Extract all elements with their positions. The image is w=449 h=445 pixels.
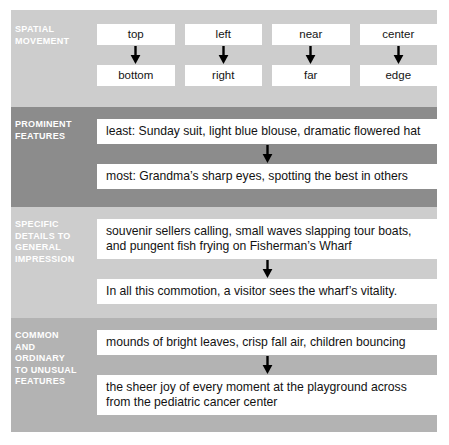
- section-label-common-and-ordinary-to-unusual-features: COMMON AND ORDINARY TO UNUSUAL FEATURES: [11, 330, 97, 388]
- section-label-prominent-features: PROMINENT FEATURES: [11, 119, 97, 142]
- section-spatial-movement: SPATIAL MOVEMENT top bottom left: [11, 10, 437, 107]
- section-label-line: TO UNUSUAL: [15, 365, 97, 377]
- statement-line: In all this commotion, a visitor sees th…: [106, 284, 428, 299]
- section-label-line: GENERAL: [15, 242, 97, 254]
- section-label-line: PROMINENT: [15, 119, 97, 131]
- section-label-line: MOVEMENT: [15, 36, 97, 48]
- word-box-from: center: [360, 24, 438, 45]
- section-label-line: SPATIAL: [15, 24, 97, 36]
- section-body-spatial-movement: top bottom left: [97, 24, 437, 86]
- statement-box-from: least: Sunday suit, light blue blouse, d…: [97, 119, 437, 144]
- section-label-specific-details-to-general-impression: SPECIFIC DETAILS TO GENERAL IMPRESSION: [11, 219, 97, 265]
- statement-box-to: most: Grandma’s sharp eyes, spotting the…: [97, 164, 437, 189]
- statement-box-from: mounds of bright leaves, crisp fall air,…: [97, 330, 437, 355]
- section-prominent-features: PROMINENT FEATURES least: Sunday suit, l…: [11, 107, 437, 207]
- down-arrow-icon: [185, 45, 263, 65]
- statement-line: souvenir sellers calling, small waves sl…: [106, 224, 428, 239]
- section-label-spatial-movement: SPATIAL MOVEMENT: [11, 24, 97, 47]
- spatial-pair-left-right: left right: [185, 24, 263, 86]
- word-box-to: edge: [360, 65, 438, 86]
- section-body-specific-details: souvenir sellers calling, small waves sl…: [97, 219, 437, 304]
- word-box-to: right: [185, 65, 263, 86]
- section-body-common-and-ordinary: mounds of bright leaves, crisp fall air,…: [97, 330, 437, 415]
- section-label-line: COMMON: [15, 330, 97, 342]
- statement-line: mounds of bright leaves, crisp fall air,…: [106, 335, 428, 350]
- statement-line: least: Sunday suit, light blue blouse, d…: [106, 124, 428, 139]
- section-label-line: FEATURES: [15, 131, 97, 143]
- word-box-from: left: [185, 24, 263, 45]
- statement-line: most: Grandma’s sharp eyes, spotting the…: [106, 169, 428, 184]
- down-arrow-icon: [97, 355, 437, 375]
- down-arrow-icon: [360, 45, 438, 65]
- section-specific-details-to-general-impression: SPECIFIC DETAILS TO GENERAL IMPRESSION s…: [11, 207, 437, 318]
- statement-box-from: souvenir sellers calling, small waves sl…: [97, 219, 437, 259]
- statement-box-to: the sheer joy of every moment at the pla…: [97, 375, 437, 415]
- section-label-line: ORDINARY: [15, 353, 97, 365]
- down-arrow-icon: [97, 259, 437, 279]
- section-body-prominent-features: least: Sunday suit, light blue blouse, d…: [97, 119, 437, 189]
- statement-line: from the pediatric cancer center: [106, 395, 428, 410]
- word-box-to: far: [272, 65, 350, 86]
- down-arrow-icon: [97, 144, 437, 164]
- spatial-pair-center-edge: center edge: [360, 24, 438, 86]
- section-label-line: IMPRESSION: [15, 254, 97, 266]
- organizational-patterns-figure: SPATIAL MOVEMENT top bottom left: [0, 0, 449, 445]
- statement-line: and pungent fish frying on Fisherman’s W…: [106, 239, 428, 254]
- down-arrow-icon: [97, 45, 175, 65]
- section-label-line: SPECIFIC: [15, 219, 97, 231]
- statement-box-to: In all this commotion, a visitor sees th…: [97, 279, 437, 304]
- section-label-line: DETAILS TO: [15, 231, 97, 243]
- word-box-from: top: [97, 24, 175, 45]
- down-arrow-icon: [272, 45, 350, 65]
- spatial-pair-top-bottom: top bottom: [97, 24, 175, 86]
- spatial-pair-near-far: near far: [272, 24, 350, 86]
- spatial-movement-columns: top bottom left: [97, 24, 437, 86]
- section-common-and-ordinary-to-unusual-features: COMMON AND ORDINARY TO UNUSUAL FEATURES …: [11, 318, 437, 432]
- statement-line: the sheer joy of every moment at the pla…: [106, 380, 428, 395]
- section-label-line: FEATURES: [15, 376, 97, 388]
- word-box-from: near: [272, 24, 350, 45]
- word-box-to: bottom: [97, 65, 175, 86]
- section-label-line: AND: [15, 342, 97, 354]
